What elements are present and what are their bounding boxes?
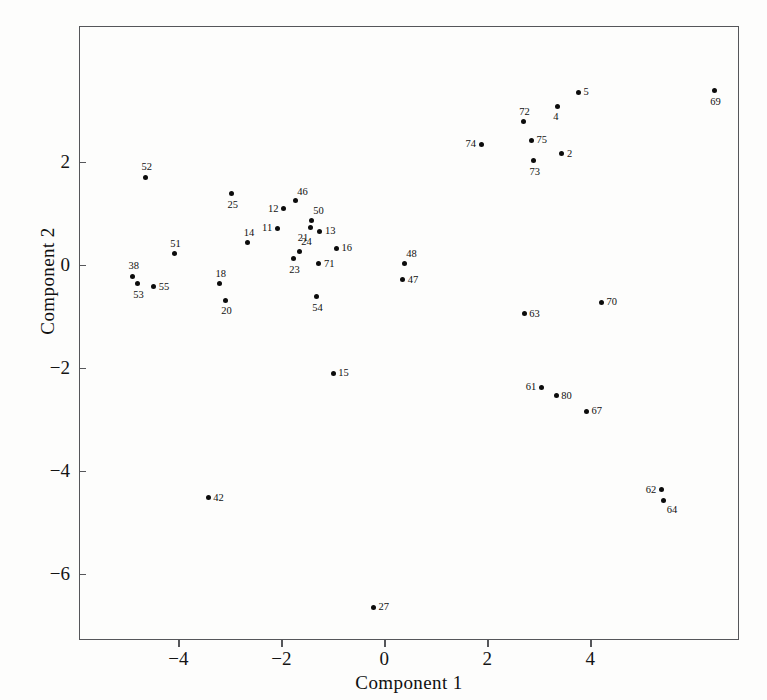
x-tick-mark (281, 640, 282, 647)
x-tick-mark (590, 640, 591, 647)
y-tick-label: −4 (30, 460, 70, 482)
x-tick-label: −2 (271, 648, 291, 670)
x-tick-mark (487, 640, 488, 647)
scatter-plot-figure: 5225461250211113142416512371483853184755… (0, 0, 767, 700)
x-tick-mark (384, 640, 385, 647)
x-tick-label: 0 (380, 648, 390, 670)
plot-frame (79, 26, 739, 640)
x-tick-label: −4 (168, 648, 188, 670)
x-tick-mark (178, 640, 179, 647)
y-tick-label: 2 (30, 151, 70, 173)
x-axis-title: Component 1 (79, 672, 739, 694)
y-axis-title: Component 2 (37, 171, 59, 391)
x-tick-label: 4 (585, 648, 595, 670)
x-tick-label: 2 (483, 648, 493, 670)
y-tick-label: −6 (30, 563, 70, 585)
